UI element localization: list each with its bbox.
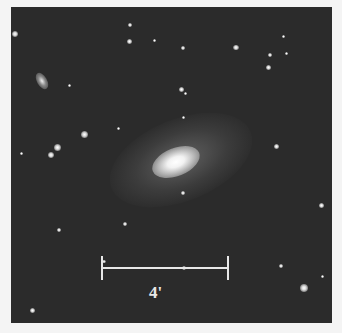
star [319, 203, 324, 208]
small-edge-on-galaxy [33, 71, 51, 92]
star [282, 35, 285, 38]
star [117, 127, 120, 130]
star [57, 228, 61, 232]
star [81, 131, 88, 138]
star [127, 39, 132, 44]
scale-bar-right-tick [227, 256, 229, 280]
star [182, 116, 185, 119]
star [321, 275, 324, 278]
star [274, 144, 279, 149]
star [233, 45, 239, 50]
star [68, 84, 71, 87]
star [285, 52, 288, 55]
star [153, 39, 156, 42]
scale-bar-label: 4' [149, 283, 162, 303]
star [128, 23, 132, 27]
scale-bar-line [101, 267, 229, 269]
scale-bar [101, 256, 229, 280]
star [179, 87, 184, 92]
star [266, 65, 271, 70]
star [279, 264, 283, 268]
star [54, 144, 61, 151]
star [48, 152, 54, 158]
star [12, 31, 18, 37]
star [184, 92, 187, 95]
star [181, 46, 185, 50]
star [30, 308, 35, 313]
star [181, 191, 185, 195]
star [20, 152, 23, 155]
star [268, 53, 272, 57]
star [123, 222, 127, 226]
star [300, 284, 308, 292]
